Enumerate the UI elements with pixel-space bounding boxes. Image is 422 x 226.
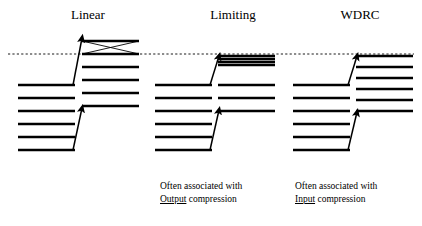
caption-limiting: Often associated with Output compression	[160, 180, 242, 206]
caption-wdrc: Often associated with Input compression	[295, 180, 377, 206]
lower-gain-arrow-limiting	[210, 110, 219, 150]
figure-canvas: Linear Limiting WDRC Often associated wi…	[0, 0, 422, 226]
panel-title-limiting: Limiting	[188, 8, 278, 21]
panel-wdrc	[293, 56, 413, 150]
panel-linear	[18, 38, 139, 150]
caption-wdrc-line1: Often associated with	[295, 180, 377, 193]
panel-title-linear: Linear	[48, 8, 128, 21]
panel-title-wdrc: WDRC	[320, 8, 400, 21]
caption-limiting-line1: Often associated with	[160, 180, 242, 193]
caption-limiting-line2: Output compression	[160, 193, 242, 206]
lower-gain-arrow-linear	[73, 108, 82, 150]
upper-gain-arrow-wdrc	[348, 56, 357, 85]
caption-limiting-keyword: Output	[160, 194, 186, 204]
caption-limiting-tail: compression	[186, 194, 236, 204]
upper-gain-arrow-linear	[73, 38, 82, 85]
upper-gain-arrow-limiting	[210, 56, 219, 85]
caption-wdrc-tail: compression	[315, 194, 365, 204]
caption-wdrc-keyword: Input	[295, 194, 315, 204]
diagram-strokes	[8, 38, 414, 150]
lower-gain-arrow-wdrc	[348, 112, 357, 150]
caption-wdrc-line2: Input compression	[295, 193, 377, 206]
panel-limiting	[155, 56, 275, 150]
